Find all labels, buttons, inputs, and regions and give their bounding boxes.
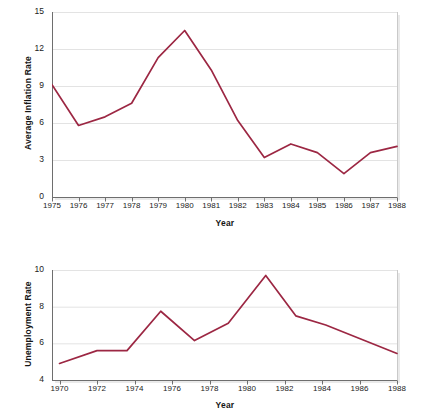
x-tick-label: 1985 — [308, 201, 326, 210]
y-tick-label: 6 — [22, 337, 44, 347]
x-tick-label: 1978 — [123, 201, 141, 210]
y-tick-label: 6 — [22, 117, 44, 127]
x-tick-label: 1984 — [313, 384, 331, 393]
x-tick-label: 1987 — [362, 201, 380, 210]
x-tick-label: 1977 — [96, 201, 114, 210]
x-tick-label: 1982 — [229, 201, 247, 210]
x-tick-label: 1980 — [238, 384, 256, 393]
x-tick-label: 1970 — [51, 384, 69, 393]
x-tick-label: 1975 — [43, 201, 61, 210]
plot-area-unemployment — [52, 270, 403, 386]
x-tick-label: 1986 — [351, 384, 369, 393]
y-tick-label: 0 — [22, 191, 44, 201]
y-axis-title-inflation: Average Inflation Rate — [23, 43, 33, 163]
plot-area-inflation — [52, 12, 403, 203]
y-tick-label: 10 — [22, 264, 44, 274]
x-tick-label: 1976 — [70, 201, 88, 210]
x-tick-label: 1980 — [176, 201, 194, 210]
x-tick-label: 1976 — [163, 384, 181, 393]
x-axis-title-inflation: Year — [14, 218, 423, 228]
chart-unemployment: Unemployment Rate 46810 1970197219741976… — [0, 232, 423, 399]
y-tick-label: 8 — [22, 301, 44, 311]
x-tick-label: 1988 — [388, 201, 406, 210]
y-tick-label: 15 — [22, 6, 44, 16]
x-tick-label: 1988 — [388, 384, 406, 393]
y-tick-label: 3 — [22, 154, 44, 164]
x-tick-label: 1972 — [88, 384, 106, 393]
x-tick-label: 1982 — [276, 384, 294, 393]
x-tick-label: 1979 — [149, 201, 167, 210]
x-tick-label: 1984 — [282, 201, 300, 210]
x-tick-label: 1974 — [126, 384, 144, 393]
y-tick-label: 12 — [22, 43, 44, 53]
x-tick-label: 1978 — [201, 384, 219, 393]
x-tick-label: 1981 — [202, 201, 220, 210]
x-tick-label: 1986 — [335, 201, 353, 210]
y-tick-label: 9 — [22, 80, 44, 90]
y-tick-label: 4 — [22, 374, 44, 384]
chart-inflation: Average Inflation Rate 03691215 19751976… — [0, 0, 423, 232]
x-tick-label: 1983 — [255, 201, 273, 210]
y-axis-title-unemployment: Unemployment Rate — [23, 264, 33, 384]
x-axis-title-unemployment: Year — [14, 400, 423, 410]
